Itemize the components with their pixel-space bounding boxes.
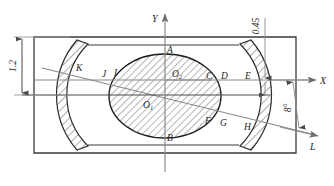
label-H: H [243, 122, 252, 132]
label-K: K [75, 63, 83, 73]
label-C: C [206, 71, 213, 81]
dimension-label-1-2: 1.2 [8, 60, 18, 72]
label-F: F [204, 116, 211, 126]
dimension-label-8-deg: 8° [283, 104, 293, 113]
axis-label-x: X [319, 75, 327, 86]
label-A: A [166, 45, 173, 55]
axis-label-l: L [309, 141, 316, 152]
axis-label-y: Y [152, 13, 159, 24]
label-G: G [220, 118, 227, 128]
dimension-label-0-45: 0.45 [251, 17, 261, 34]
label-E: E [244, 71, 251, 81]
label-D: D [220, 71, 228, 81]
label-J: J [102, 69, 107, 79]
technical-drawing-figure: A B C D E F G H I J K O1 O2 Y X L 1.2 0.… [0, 0, 334, 186]
label-B: B [167, 133, 173, 143]
l-axis [280, 127, 318, 136]
